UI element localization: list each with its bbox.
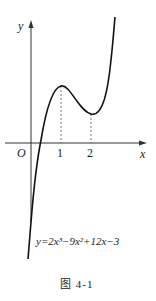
x-axis-label: x	[140, 147, 145, 162]
tick-label-1: 1	[57, 146, 63, 161]
function-label: y=2x³−9x²+12x−3	[36, 235, 119, 247]
y-axis-label: y	[18, 19, 23, 34]
y-axis-arrow-icon	[29, 20, 34, 28]
x-axis-arrow-icon	[139, 141, 147, 146]
figure-caption: 图 4-1	[60, 275, 93, 291]
function-curve	[28, 17, 115, 259]
origin-label: O	[17, 146, 26, 161]
tick-label-2: 2	[87, 146, 93, 161]
